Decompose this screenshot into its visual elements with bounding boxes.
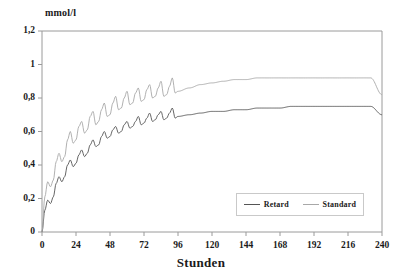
y-tick-label: 1: [30, 59, 35, 69]
y-tick-label: 0,8: [23, 92, 35, 102]
y-tick-label: 0,6: [23, 126, 35, 136]
legend-item-standard: Standard: [303, 200, 357, 209]
chart-figure: mmol/l 00,20,40,60,811,20244872961201441…: [0, 0, 402, 279]
x-tick-label: 192: [307, 240, 322, 250]
chart-legend: Retard Standard: [236, 193, 364, 216]
legend-label-retard: Retard: [264, 200, 289, 209]
legend-label-standard: Standard: [323, 200, 357, 209]
legend-swatch-standard: [303, 204, 319, 205]
x-tick-label: 0: [40, 240, 45, 250]
x-tick-label: 48: [105, 240, 115, 250]
y-tick-label: 1,2: [23, 25, 35, 35]
y-tick-label: 0,4: [23, 159, 35, 169]
x-tick-label: 96: [173, 240, 183, 250]
plot-area: 00,20,40,60,811,202448729612014416819221…: [0, 0, 402, 279]
legend-swatch-retard: [244, 204, 260, 205]
legend-item-retard: Retard: [244, 200, 289, 209]
x-tick-label: 240: [375, 240, 390, 250]
x-axis-title: Stunden: [0, 255, 402, 271]
x-tick-label: 168: [273, 240, 288, 250]
x-tick-label: 216: [341, 240, 356, 250]
axes-group: 00,20,40,60,811,202448729612014416819221…: [23, 25, 389, 250]
x-tick-label: 144: [239, 240, 254, 250]
chart-svg: 00,20,40,60,811,202448729612014416819221…: [0, 0, 402, 279]
x-tick-label: 72: [139, 240, 149, 250]
y-tick-label: 0,2: [23, 193, 35, 203]
x-tick-label: 120: [205, 240, 220, 250]
x-tick-label: 24: [71, 240, 81, 250]
y-tick-label: 0: [30, 226, 35, 236]
